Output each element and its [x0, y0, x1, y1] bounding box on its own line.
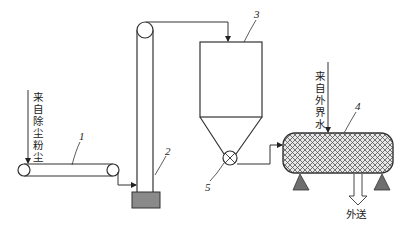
label-1: 1	[79, 130, 85, 142]
water-input: 来 自 外 界 水	[315, 62, 328, 132]
water-input-char-3: 界	[315, 106, 326, 118]
water-input-char-4: 水	[315, 118, 326, 130]
bucket-elevator: 2	[132, 22, 171, 208]
elevator-head-pulley-icon	[137, 22, 153, 38]
leader-line-3	[244, 20, 256, 42]
leader-line-5	[210, 163, 224, 181]
output: 外送	[346, 174, 367, 220]
leader-line-2	[155, 156, 166, 175]
support-right	[374, 174, 390, 190]
rotary-valve: 5	[205, 151, 237, 193]
flow-valve-to-tank	[237, 145, 282, 164]
elevator-base	[132, 192, 160, 208]
label-5: 5	[205, 181, 211, 193]
output-arrow-icon	[349, 174, 367, 205]
dust-input-char-1: 自	[33, 103, 43, 115]
dust-input-char-2: 除	[33, 115, 44, 127]
conveyor-pulley-left-icon	[18, 164, 30, 176]
silo: 3	[200, 8, 262, 154]
flow-conveyor-to-elevator	[118, 172, 136, 185]
water-input-char-1: 自	[315, 82, 325, 94]
label-2: 2	[165, 145, 171, 157]
leader-line-1	[72, 142, 80, 165]
label-4: 4	[355, 100, 361, 112]
leader-line-4	[344, 112, 356, 133]
label-3: 3	[253, 8, 260, 20]
conveyor-pulley-right-icon	[107, 164, 119, 176]
output-label: 外送	[346, 208, 367, 220]
mixing-tank: 4	[283, 100, 393, 190]
dust-input-char-5: 尘	[33, 151, 44, 163]
dust-input-char-4: 粉	[33, 139, 44, 151]
flow-elevator-to-silo	[146, 22, 228, 41]
dust-input-char-0: 来	[33, 91, 44, 103]
dust-input-char-3: 尘	[33, 127, 44, 139]
process-flow-diagram: 来 自 除 尘 粉 尘 1 2 3 5	[0, 0, 409, 230]
support-left	[293, 174, 309, 190]
water-input-char-0: 来	[315, 70, 326, 82]
water-input-char-2: 外	[315, 94, 326, 106]
dust-input: 来 自 除 尘 粉 尘	[28, 90, 44, 163]
